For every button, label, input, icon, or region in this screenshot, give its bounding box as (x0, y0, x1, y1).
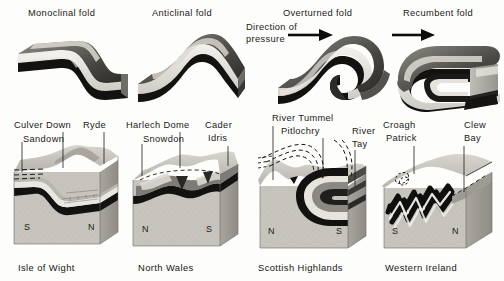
label-sandown: Sandown (23, 134, 64, 145)
arrow-direction-of-pressure-recumbent (392, 29, 435, 41)
label-pitlochry: Pitlochry (281, 126, 320, 137)
label-ryde: Ryde (83, 120, 106, 131)
compass-marker-south-scottish-highlands: S (336, 226, 342, 236)
fold-title-recumbent: Recumbent fold (403, 8, 473, 19)
caption-north-wales: North Wales (138, 262, 194, 273)
label-patrick: Patrick (386, 133, 417, 144)
label-clew: Clew (464, 120, 486, 131)
caption-scottish-highlands: Scottish Highlands (258, 262, 343, 273)
fold-title-overturned: Overturned fold (283, 8, 352, 19)
caption-isle-of-wight: Isle of Wight (18, 262, 75, 273)
label-bay: Bay (464, 133, 481, 144)
compass-marker-north-scottish-highlands: N (268, 226, 275, 236)
label-culver-down: Culver Down (14, 120, 71, 131)
label-river: River (352, 126, 375, 137)
label-idris: Idris (208, 133, 227, 144)
compass-marker-south-north-wales: S (206, 224, 212, 234)
compass-marker-south-western-ireland: S (392, 226, 398, 236)
fold-model-anticlinal (138, 34, 245, 102)
pressure-label-line2: pressure (246, 34, 285, 45)
label-river-tummel: River Tummel (272, 113, 334, 124)
compass-marker-south-isle-of-wight: S (24, 222, 30, 232)
pressure-label-line1: Direction of (246, 22, 297, 33)
fold-title-monoclinal: Monoclinal fold (28, 8, 95, 19)
compass-marker-north-isle-of-wight: N (88, 222, 95, 232)
label-snowdon: Snowdon (143, 134, 184, 145)
compass-marker-north-north-wales: N (142, 224, 149, 234)
compass-marker-north-western-ireland: N (452, 226, 459, 236)
geology-folds-figure: Monoclinal fold Anticlinal fold Overturn… (0, 0, 504, 281)
label-harlech-dome: Harlech Dome (126, 120, 190, 131)
fold-model-recumbent (397, 46, 500, 112)
fold-model-monoclinal (18, 41, 128, 100)
fold-title-anticlinal: Anticlinal fold (152, 8, 212, 19)
label-croagh: Croagh (383, 120, 416, 131)
label-tay: Tay (352, 139, 368, 150)
label-cader: Cader (205, 120, 232, 131)
caption-western-ireland: Western Ireland (385, 262, 457, 273)
block-diagram-western-ireland (382, 146, 492, 248)
fold-model-overturned (278, 36, 390, 104)
